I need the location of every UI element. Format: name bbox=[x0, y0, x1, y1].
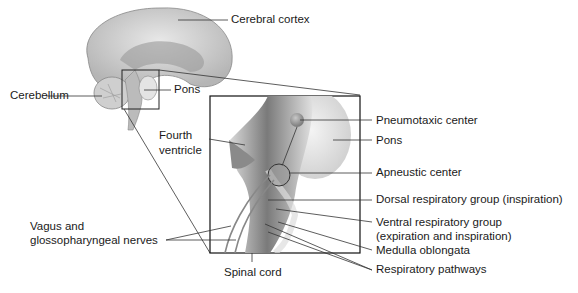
label-cerebral-cortex: Cerebral cortex bbox=[231, 13, 310, 26]
label-pons-small: Pons bbox=[174, 83, 200, 96]
label-vagus-1: Vagus and bbox=[30, 220, 84, 233]
label-apneustic-center: Apneustic center bbox=[376, 166, 462, 179]
brainstem-diagram bbox=[0, 0, 578, 293]
label-vagus-2: glossopharyngeal nerves bbox=[30, 234, 158, 247]
label-pons-large: Pons bbox=[376, 134, 402, 147]
label-fourth-ventricle-2: ventricle bbox=[159, 144, 202, 157]
label-medulla-oblongata: Medulla oblongata bbox=[376, 244, 470, 257]
label-spinal-cord: Spinal cord bbox=[224, 266, 282, 279]
label-cerebellum: Cerebellum bbox=[10, 89, 69, 102]
label-ventral-respiratory-group-2: (expiration and inspiration) bbox=[376, 230, 512, 243]
label-dorsal-respiratory-group: Dorsal respiratory group (inspiration) bbox=[376, 193, 563, 206]
label-ventral-respiratory-group-1: Ventral respiratory group bbox=[376, 216, 502, 229]
label-pneumotaxic-center: Pneumotaxic center bbox=[376, 114, 478, 127]
label-respiratory-pathways: Respiratory pathways bbox=[376, 263, 487, 276]
label-fourth-ventricle-1: Fourth bbox=[159, 129, 192, 142]
